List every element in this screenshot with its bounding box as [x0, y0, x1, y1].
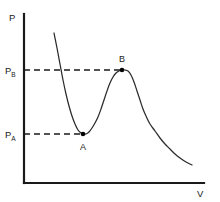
point-label-b: B	[119, 54, 125, 64]
x-axis-label: V	[197, 188, 204, 199]
point-label-a: A	[80, 142, 86, 152]
isotherm-curve	[54, 33, 192, 165]
y-tick-label-pb: PB	[5, 65, 16, 78]
figure-container: A B P V PB PA	[0, 0, 220, 202]
point-marker-b	[120, 68, 125, 73]
y-axis-label: P	[9, 12, 15, 23]
point-marker-a	[81, 132, 86, 137]
y-tick-pa-subscript: A	[11, 135, 16, 142]
y-tick-pb-subscript: B	[11, 71, 15, 78]
pv-isotherm-chart: A B P V PB PA	[0, 0, 220, 202]
y-tick-label-pa: PA	[5, 129, 16, 142]
